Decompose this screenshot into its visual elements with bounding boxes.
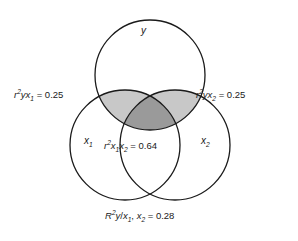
annotation-center-value: = 0.64 bbox=[128, 140, 157, 151]
annotation-left-value: = 0.25 bbox=[34, 89, 63, 100]
x2-circle-label: x2 bbox=[201, 135, 210, 148]
annotation-y-x1: r2yx1 = 0.25 bbox=[14, 88, 63, 102]
venn-diagram-canvas bbox=[0, 0, 298, 241]
annotation-bottom-R: R bbox=[105, 210, 112, 221]
annotation-right-value: = 0.25 bbox=[216, 89, 245, 100]
y-circle-label: y bbox=[141, 25, 146, 36]
x2-label-subscript: 2 bbox=[206, 141, 210, 148]
annotation-x1-x2: r2x1x2 = 0.64 bbox=[104, 139, 157, 153]
annotation-y-x2: r2yx2 = 0.25 bbox=[196, 88, 245, 102]
x1-label-subscript: 1 bbox=[89, 141, 93, 148]
x1-circle-label: x1 bbox=[84, 135, 93, 148]
venn-diagram-figure: y x1 x2 r2yx1 = 0.25 r2yx2 = 0.25 r2x1x2… bbox=[0, 0, 298, 241]
annotation-bottom-value: = 0.28 bbox=[145, 210, 174, 221]
overlap-y-x1-x2-shading bbox=[0, 0, 298, 241]
annotation-multiple-r-squared: R2y/x1, x2 = 0.28 bbox=[105, 209, 174, 223]
